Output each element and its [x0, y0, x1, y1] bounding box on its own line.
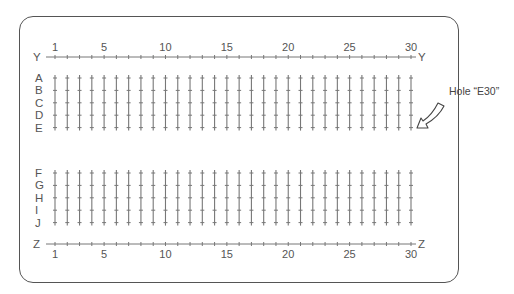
column-number: 15 — [221, 248, 233, 260]
row-label: A — [35, 72, 43, 84]
curved-arrow-icon — [417, 103, 444, 128]
column-number: 25 — [343, 41, 355, 53]
column-number: 5 — [101, 248, 107, 260]
column-number: 25 — [343, 248, 355, 260]
column-number: 30 — [405, 41, 417, 53]
hole-e30-callout: Hole “E30” — [417, 85, 500, 128]
callout-label: Hole “E30” — [449, 85, 500, 97]
row-label: J — [35, 217, 41, 229]
upper-terminal-block-a-e: ABCDE — [35, 72, 413, 134]
row-label: C — [35, 97, 43, 109]
column-number: 30 — [405, 248, 417, 260]
breadboard-diagram: YY151015202530 ABCDE FGHIJ ZZ15101520253… — [0, 0, 514, 294]
row-label: F — [35, 167, 42, 179]
column-number: 10 — [159, 41, 171, 53]
bottom-rail-z: ZZ151015202530 — [33, 238, 425, 260]
row-label: B — [35, 84, 43, 96]
rail-label: Y — [33, 51, 41, 63]
column-number: 20 — [282, 248, 294, 260]
row-label: D — [35, 109, 43, 121]
rail-label: Y — [418, 51, 426, 63]
rail-label: Z — [33, 238, 40, 250]
rail-label: Z — [418, 238, 425, 250]
column-number: 1 — [52, 248, 58, 260]
top-rail-y: YY151015202530 — [33, 41, 426, 63]
column-number: 15 — [221, 41, 233, 53]
lower-terminal-block-f-j: FGHIJ — [35, 167, 413, 229]
column-number: 10 — [159, 248, 171, 260]
column-number: 1 — [52, 41, 58, 53]
row-label: G — [35, 179, 44, 191]
column-number: 5 — [101, 41, 107, 53]
row-label: I — [35, 204, 38, 216]
column-number: 20 — [282, 41, 294, 53]
row-label: E — [35, 122, 43, 134]
row-label: H — [35, 192, 43, 204]
